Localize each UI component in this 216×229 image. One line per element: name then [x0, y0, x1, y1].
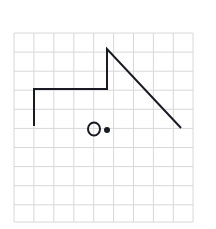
filled-dot: [104, 127, 110, 133]
figure-svg: [0, 0, 216, 229]
drawing-canvas: [0, 0, 216, 229]
canvas-background: [0, 0, 216, 229]
